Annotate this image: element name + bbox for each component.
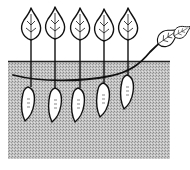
sweet-potato-illustration: [0, 0, 190, 170]
leaves: [22, 7, 190, 50]
leaf-icon: [71, 8, 90, 40]
leaf-icon: [119, 8, 138, 40]
leaf-icon: [95, 9, 114, 41]
leaf-icon: [22, 8, 41, 40]
leaf-icon: [46, 7, 65, 39]
